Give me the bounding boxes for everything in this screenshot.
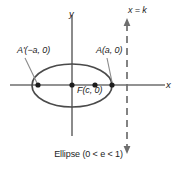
focus-label: F(c, 0): [77, 86, 102, 95]
vertex-left-label: A'(−a, 0): [17, 46, 50, 55]
point-center: [69, 82, 74, 87]
figure-caption: Ellipse (0 < e < 1): [0, 150, 177, 159]
leader-line-vertex-left: [25, 58, 37, 83]
point-vertex-right: [109, 82, 114, 87]
vertex-right-label: A(a, 0): [96, 46, 122, 55]
directrix-label: x = k: [128, 6, 147, 15]
ellipse-figure: y x A'(−a, 0) A(a, 0) F(c, 0) x = k Elli…: [0, 0, 177, 171]
directrix-arrow-up-icon: [124, 18, 131, 26]
x-axis-label: x: [166, 80, 171, 90]
point-vertex-left: [35, 82, 40, 87]
y-axis-label: y: [69, 9, 74, 19]
